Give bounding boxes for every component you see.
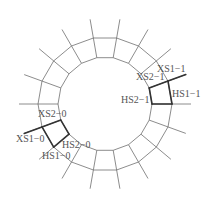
segment-1-side-a bbox=[149, 81, 168, 88]
radial-spoke bbox=[149, 120, 186, 133]
outer-ring-edge bbox=[54, 46, 72, 61]
inner-ring-edge bbox=[113, 58, 128, 64]
radial-spoke bbox=[141, 134, 171, 159]
inner-ring-edge bbox=[129, 134, 142, 145]
outer-ring-edge bbox=[139, 46, 157, 61]
label-hs1-0: HS1−0 bbox=[42, 150, 70, 161]
segment-1-inner-edge bbox=[149, 88, 152, 104]
outer-ring-edge bbox=[168, 104, 172, 127]
outer-ring-edge bbox=[72, 38, 94, 46]
label-xs2-1: XS2−1 bbox=[136, 71, 164, 82]
inner-ring-edge bbox=[69, 63, 82, 74]
inner-ring-edge bbox=[82, 58, 97, 64]
segment-1-spoke-extension bbox=[168, 75, 186, 82]
radial-spoke bbox=[129, 30, 149, 64]
label-hs2-1: HS2−1 bbox=[121, 94, 149, 105]
segment-0-side-b bbox=[42, 120, 61, 127]
label-xs2-0: XS2−0 bbox=[38, 108, 66, 119]
outer-ring-edge bbox=[42, 61, 54, 81]
outer-ring-edge bbox=[139, 147, 157, 162]
outer-ring-edge bbox=[117, 38, 139, 46]
inner-ring-edge bbox=[149, 104, 152, 120]
inner-ring-edge bbox=[61, 74, 69, 88]
radial-spoke bbox=[24, 75, 61, 88]
inner-ring-edge bbox=[141, 120, 149, 134]
label-hs2-0: HS2−0 bbox=[62, 139, 90, 150]
segment-0-inner-edge bbox=[61, 120, 69, 134]
outer-ring-edge bbox=[117, 162, 139, 170]
ring-diagram-svg: XS1−1XS2−1HS2−1HS1−1XS2−0XS1−0HS2−0HS1−0 bbox=[0, 0, 215, 199]
outer-ring-edge bbox=[38, 81, 42, 104]
radial-spoke bbox=[129, 145, 149, 179]
outer-ring-edge bbox=[72, 162, 94, 170]
radial-spoke bbox=[62, 30, 82, 64]
radial-spoke bbox=[39, 49, 69, 74]
outer-ring-edge bbox=[156, 127, 168, 147]
label-hs1-1: HS1−1 bbox=[172, 88, 200, 99]
inner-ring-edge bbox=[113, 145, 128, 151]
ring-diagram: XS1−1XS2−1HS2−1HS1−1XS2−0XS1−0HS2−0HS1−0 bbox=[0, 0, 215, 199]
inner-ring-edge bbox=[58, 88, 61, 104]
label-xs1-0: XS1−0 bbox=[16, 133, 44, 144]
